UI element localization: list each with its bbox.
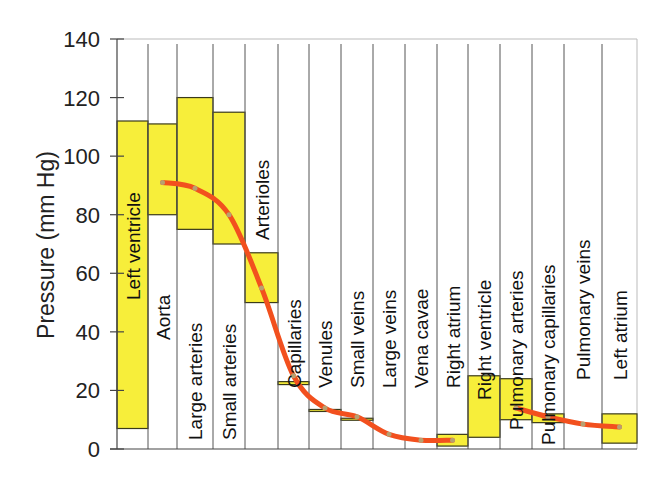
y-tick-label: 60 — [76, 261, 100, 286]
blood-pressure-chart: Left ventricleAortaLarge arteriesSmall a… — [0, 0, 663, 479]
mean-point-marker — [259, 285, 264, 290]
category-label: Small arteries — [219, 324, 240, 440]
mean-point-marker — [227, 212, 232, 217]
y-tick-label: 40 — [76, 320, 100, 345]
y-tick-label: 140 — [63, 27, 100, 52]
mean-point-marker — [419, 438, 424, 443]
category-label: Right atrium — [443, 286, 464, 388]
category-label: Arterioles — [252, 160, 273, 240]
category-label: Large arteries — [185, 323, 206, 440]
mean-point-marker — [193, 186, 198, 191]
y-tick-label: 120 — [63, 86, 100, 111]
category-label: Pulmonary capillaries — [538, 264, 559, 445]
mean-point-marker — [355, 414, 360, 419]
column-dividers — [148, 44, 602, 449]
category-label: Left atrium — [610, 290, 631, 380]
range-bar — [213, 112, 245, 244]
category-label: Small veins — [347, 291, 368, 388]
mean-point-marker — [160, 180, 165, 185]
mean-point-marker — [617, 425, 622, 430]
range-bar — [148, 124, 177, 215]
y-tick-label: 80 — [76, 203, 100, 228]
category-label: Venules — [315, 320, 336, 388]
mean-point-marker — [323, 406, 328, 411]
category-label: Capillaries — [284, 299, 305, 388]
range-bar — [177, 98, 213, 230]
category-label: Aorta — [153, 294, 174, 340]
category-label: Large veins — [379, 290, 400, 388]
mean-point-marker — [581, 422, 586, 427]
y-tick-label: 20 — [76, 378, 100, 403]
category-label: Pulmonary veins — [573, 240, 594, 380]
category-label: Right ventricle — [474, 280, 495, 400]
y-axis-title: Pressure (mm Hg) — [33, 151, 59, 339]
category-label: Vena cavae — [411, 289, 432, 388]
y-tick-label: 0 — [88, 437, 100, 462]
mean-point-marker — [450, 438, 455, 443]
mean-point-marker — [387, 432, 392, 437]
y-tick-label: 100 — [63, 144, 100, 169]
category-label: Left ventricle — [123, 192, 144, 300]
category-label: Pulmonary arteries — [506, 271, 527, 430]
